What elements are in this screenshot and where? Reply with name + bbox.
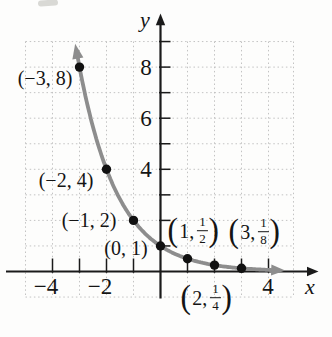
x-axis-letter: x xyxy=(305,276,315,298)
point-label-1-half: ( 1, 1 2 ) xyxy=(167,215,219,247)
fraction-numerator: 1 xyxy=(258,216,269,232)
fraction-numerator: 1 xyxy=(210,282,221,298)
fraction-one-quarter: 1 4 xyxy=(210,282,221,314)
y-tick-label-8: 8 xyxy=(140,56,152,79)
fraction-one-half: 1 2 xyxy=(197,215,208,247)
close-paren: ) xyxy=(269,218,279,247)
y-tick-label-6: 6 xyxy=(140,107,152,130)
point-x-value: 1, xyxy=(179,221,194,241)
fraction-one-eighth: 1 8 xyxy=(258,216,269,248)
fraction-denominator: 4 xyxy=(210,299,221,314)
close-paren: ) xyxy=(221,284,231,313)
x-tick-label-neg2: −2 xyxy=(88,275,112,298)
point-label-3-eighth: ( 3, 1 8 ) xyxy=(228,216,280,248)
x-tick-label-neg4: −4 xyxy=(34,275,58,298)
fraction-denominator: 2 xyxy=(197,232,208,247)
close-paren: ) xyxy=(208,217,218,246)
open-paren: ( xyxy=(180,284,190,313)
open-paren: ( xyxy=(167,217,177,246)
fraction-numerator: 1 xyxy=(197,215,208,231)
point-label-0-1: (0, 1) xyxy=(104,238,147,258)
point-label-neg1-2: (−1, 2) xyxy=(62,210,117,230)
open-paren: ( xyxy=(228,218,238,247)
x-tick-label-4: 4 xyxy=(262,275,274,298)
y-axis-letter: y xyxy=(140,9,150,31)
point-label-2-quarter: ( 2, 1 4 ) xyxy=(180,282,232,314)
exponential-decay-graph-figure: (−3, 8) (−2, 4) (−1, 2) (0, 1) ( 1, 1 2 … xyxy=(0,0,332,337)
point-label-neg3-8: (−3, 8) xyxy=(18,68,73,88)
fraction-denominator: 8 xyxy=(258,233,269,248)
y-tick-label-4: 4 xyxy=(140,158,152,181)
point-label-neg2-4: (−2, 4) xyxy=(39,170,94,190)
point-x-value: 2, xyxy=(192,288,207,308)
point-x-value: 3, xyxy=(240,222,255,242)
